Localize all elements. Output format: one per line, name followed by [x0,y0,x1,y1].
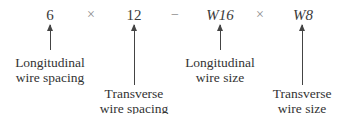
arrow-up-icon [134,25,135,85]
arrow-up-icon [302,25,303,85]
label-line: wire size [273,101,332,114]
arrow-up-icon [50,25,51,50]
longitudinal-wire-size-value: W16 [206,7,234,23]
label-longitudinal-wire-size: Longitudinal wire size [185,55,255,85]
label-line: Longitudinal [15,55,85,70]
label-longitudinal-wire-spacing: Longitudinal wire spacing [15,55,85,85]
transverse-spacing-value: 12 [127,7,142,23]
multiply-operator: × [87,7,95,23]
arrow-up-icon [220,25,221,50]
label-line: wire spacing [15,70,85,85]
label-line: Transverse [100,86,169,101]
transverse-wire-size-value: W8 [293,7,313,23]
dash-operator: − [171,7,179,23]
label-line: Longitudinal [185,55,255,70]
longitudinal-spacing-value: 6 [46,7,54,23]
label-line: wire size [185,70,255,85]
label-line: wire spacing [100,101,169,114]
label-transverse-wire-spacing: Transverse wire spacing [100,86,169,114]
label-transverse-wire-size: Transverse wire size [273,86,332,114]
multiply-operator: × [256,7,264,23]
label-line: Transverse [273,86,332,101]
